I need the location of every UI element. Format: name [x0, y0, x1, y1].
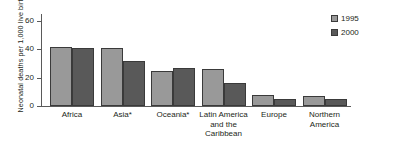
- x-axis-label-line: America: [277, 120, 373, 130]
- y-axis-tick: 60: [37, 21, 41, 22]
- x-axis-label-northern-america: NorthernAmerica: [277, 110, 373, 129]
- y-axis-tick-label: 40: [25, 44, 34, 53]
- bar-1995-oceania: [151, 71, 173, 106]
- y-axis-tick-label: 20: [25, 73, 34, 82]
- legend-swatch-icon: [331, 15, 338, 22]
- x-axis-label-line: and the: [176, 120, 272, 130]
- y-axis-tick: 20: [37, 78, 41, 79]
- bar-group: [101, 14, 145, 106]
- legend-swatch-icon: [331, 29, 338, 36]
- bar-group: [151, 14, 195, 106]
- bar-1995-asia: [101, 48, 123, 106]
- y-axis-tick-label: 0: [30, 101, 34, 110]
- bar-group: [202, 14, 246, 106]
- bar-group: [50, 14, 94, 106]
- y-axis-tick: 40: [37, 49, 41, 50]
- bar-2000-northern-america: [325, 99, 347, 106]
- y-axis-tick-label: 60: [25, 16, 34, 25]
- bar-2000-europe: [274, 99, 296, 106]
- legend-label: 2000: [341, 27, 359, 38]
- bar-group: [252, 14, 296, 106]
- bar-2000-oceania: [173, 68, 195, 106]
- bar-2000-africa: [72, 48, 94, 106]
- y-axis-tick: 0: [37, 106, 41, 107]
- y-axis-line: [41, 14, 42, 107]
- x-axis-line: [41, 106, 351, 107]
- bar-1995-africa: [50, 47, 72, 106]
- bar-1995-europe: [252, 95, 274, 106]
- plot-area: 0204060: [41, 14, 351, 107]
- x-axis-label-line: Northern: [277, 110, 373, 120]
- bar-2000-latin-america-and-the-caribbean: [224, 83, 246, 106]
- bar-1995-northern-america: [303, 96, 325, 106]
- bar-1995-latin-america-and-the-caribbean: [202, 69, 224, 106]
- legend: 19952000: [331, 13, 359, 41]
- y-axis-title: Neonatal deaths per 1,000 live births: [16, 0, 25, 113]
- legend-item-1995: 1995: [331, 13, 359, 24]
- bar-2000-asia: [123, 61, 145, 106]
- x-axis-label-line: Caribbean: [176, 129, 272, 139]
- legend-item-2000: 2000: [331, 27, 359, 38]
- legend-label: 1995: [341, 13, 359, 24]
- neonatal-deaths-bar-chart: Neonatal deaths per 1,000 live births 02…: [0, 0, 398, 159]
